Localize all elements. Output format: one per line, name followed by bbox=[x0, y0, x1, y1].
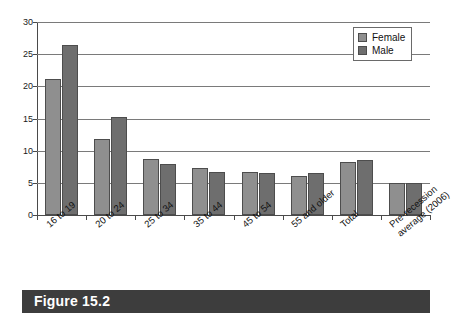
bar-group bbox=[184, 22, 233, 215]
x-axis-labels: 16 to 1920 to 2425 to 3435 to 4445 to 54… bbox=[0, 215, 450, 286]
y-axis-ticks bbox=[0, 22, 41, 215]
figure-caption-label: Figure 15.2 bbox=[34, 294, 110, 309]
male-swatch bbox=[358, 46, 367, 55]
legend-label: Female bbox=[372, 32, 405, 43]
legend-item-male: Male bbox=[358, 44, 405, 57]
bar-female bbox=[143, 159, 159, 215]
bar-female bbox=[340, 162, 356, 215]
female-swatch bbox=[358, 33, 367, 42]
bar-group bbox=[135, 22, 184, 215]
legend-item-female: Female bbox=[358, 31, 405, 44]
bar-male bbox=[357, 160, 373, 215]
bar-female bbox=[45, 79, 61, 215]
figure-caption-bar: Figure 15.2 bbox=[22, 290, 430, 313]
chart-legend: FemaleMale bbox=[353, 27, 412, 61]
bar-chart: 051015202530 FemaleMale 16 to 1920 to 24… bbox=[0, 0, 450, 286]
bar-group bbox=[234, 22, 283, 215]
bar-group bbox=[86, 22, 135, 215]
bar-female bbox=[94, 139, 110, 215]
bar-male bbox=[62, 45, 78, 215]
bar-group bbox=[37, 22, 86, 215]
bar-group bbox=[283, 22, 332, 215]
legend-label: Male bbox=[372, 45, 394, 56]
